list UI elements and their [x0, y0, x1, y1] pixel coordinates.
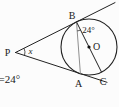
corner-note: =24° [0, 73, 20, 85]
angle-label-24: 24° [82, 25, 95, 35]
tangent-circle-diagram: P B O A C x 24° =24° [0, 0, 119, 107]
angle-arc-p [24, 48, 25, 55]
label-c: C [100, 76, 107, 87]
geometry-figure: P B O A C x 24° =24° [0, 0, 119, 107]
angle-arc-b [77, 30, 80, 31]
label-o: O [93, 41, 100, 52]
label-b: B [69, 10, 76, 21]
center-dot [87, 45, 90, 48]
tangent-line-lower [16, 53, 108, 83]
angle-label-x: x [28, 46, 33, 56]
label-p: P [5, 47, 11, 58]
label-a: A [75, 78, 83, 89]
